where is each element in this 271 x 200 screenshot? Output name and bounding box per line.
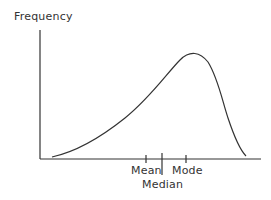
mode-label: Mode: [172, 164, 203, 177]
mean-label: Mean: [131, 164, 162, 177]
distribution-curve: [52, 53, 246, 157]
median-label: Median: [142, 178, 183, 191]
y-axis-label: Frequency: [14, 10, 73, 23]
